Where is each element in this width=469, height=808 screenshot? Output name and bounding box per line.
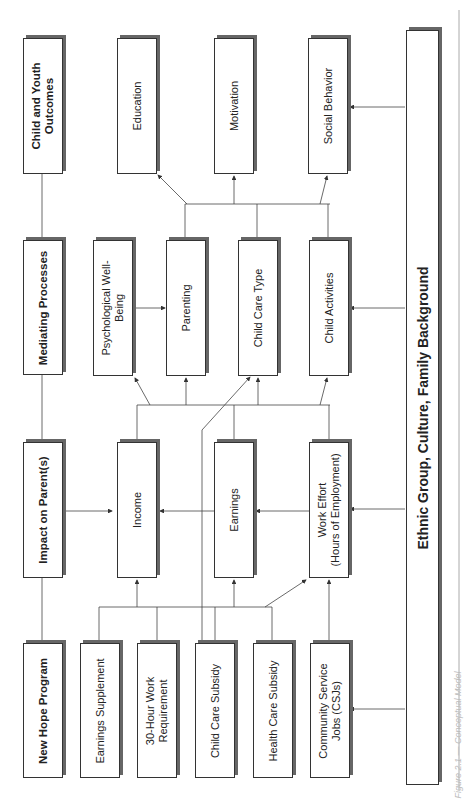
health-care-subsidy-label: Health Care Subsidy (267, 660, 280, 761)
box-education: Education (117, 38, 157, 174)
work-req-line2: Requirement (157, 679, 169, 742)
header-mediating-processes: Mediating Processes (23, 240, 63, 375)
box-social-behavior: Social Behavior (308, 38, 348, 174)
box-parenting: Parenting (166, 240, 206, 376)
mediating-label: Mediating Processes (37, 250, 50, 364)
work-effort-label: Work Effort (Hours of Employment) (316, 453, 342, 566)
psych-label-line2: Being (113, 294, 125, 322)
box-background-factors: Ethnic Group, Culture, Family Background (406, 30, 439, 785)
child-care-subsidy-label: Child Care Subsidy (209, 663, 222, 757)
new-hope-label: New Hope Program (37, 657, 50, 763)
income-label: Income (131, 492, 144, 528)
csj-line1: Community Service (317, 663, 329, 758)
header-impact-on-parents: Impact on Parent(s) (23, 442, 63, 578)
box-child-care-type: Child Care Type (238, 240, 278, 376)
psych-label-line1: Psychological Well- (100, 260, 112, 355)
header-label: Child and Youth Outcomes (30, 62, 56, 149)
social-behavior-label: Social Behavior (322, 68, 335, 144)
child-activities-label: Child Activities (323, 273, 336, 344)
work-req-line1: 30-Hour Work (144, 676, 156, 744)
work-requirement-label: 30-Hour Work Requirement (144, 676, 170, 744)
header-new-hope-program: New Hope Program (23, 643, 63, 778)
box-child-activities: Child Activities (309, 240, 349, 376)
box-30-hour-work-requirement: 30-Hour Work Requirement (137, 643, 177, 778)
header-child-youth-outcomes: Child and Youth Outcomes (23, 38, 63, 174)
csj-line2: Jobs (CSJs) (330, 681, 342, 741)
box-psychological-well-being: Psychological Well- Being (93, 240, 133, 376)
box-work-effort: Work Effort (Hours of Employment) (309, 442, 349, 578)
psych-label: Psychological Well- Being (100, 260, 126, 355)
box-child-care-subsidy: Child Care Subsidy (195, 643, 235, 778)
work-effort-line1: Work Effort (316, 483, 328, 538)
impact-label: Impact on Parent(s) (37, 456, 50, 563)
outcomes-label-line1: Child and Youth (30, 62, 42, 149)
education-label: Education (131, 82, 144, 131)
child-care-type-label: Child Care Type (252, 269, 265, 348)
box-health-care-subsidy: Health Care Subsidy (253, 643, 293, 778)
outcomes-label-line2: Outcomes (43, 78, 55, 134)
box-earnings: Earnings (214, 442, 254, 578)
parenting-label: Parenting (180, 284, 193, 331)
earnings-supplement-label: Earnings Supplement (94, 658, 107, 763)
box-earnings-supplement: Earnings Supplement (80, 643, 120, 778)
background-label: Ethnic Group, Culture, Family Background (416, 266, 429, 549)
box-motivation: Motivation (214, 38, 254, 174)
box-community-service-jobs: Community Service Jobs (CSJs) (310, 643, 350, 778)
box-income: Income (117, 442, 157, 578)
csj-label: Community Service Jobs (CSJs) (317, 663, 343, 758)
conceptual-model-diagram: Child and Youth Outcomes Mediating Proce… (0, 0, 469, 808)
work-effort-line2: (Hours of Employment) (329, 453, 341, 566)
figure-caption: Figure 2.1 — Conceptual Model (453, 671, 463, 798)
earnings-label: Earnings (228, 488, 241, 531)
motivation-label: Motivation (228, 81, 241, 131)
